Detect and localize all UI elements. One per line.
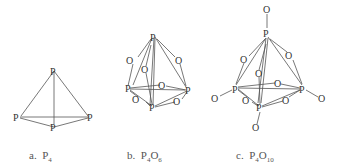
caption-p4: a. P4 xyxy=(29,149,52,164)
atom-p: P xyxy=(87,112,93,123)
atom-o: O xyxy=(141,64,148,75)
atom-o: O xyxy=(274,78,281,89)
atom-o: O xyxy=(255,68,262,79)
atom-p: P xyxy=(149,102,155,113)
formula-subscript: 10 xyxy=(267,156,274,164)
atom-o: O xyxy=(242,95,249,106)
atom-p: P xyxy=(50,66,56,77)
caption-letter: b. xyxy=(127,149,135,161)
p4o6-molecule: P P P P O O O O O O xyxy=(125,32,191,113)
atom-o: O xyxy=(175,55,182,66)
atom-p: P xyxy=(256,102,262,113)
atom-o: O xyxy=(252,122,259,133)
formula-subscript: 4 xyxy=(48,156,52,164)
p4-molecule: P P P P xyxy=(13,66,93,133)
atom-o: O xyxy=(126,55,133,66)
atom-o: O xyxy=(318,93,325,104)
atom-o: O xyxy=(240,54,247,65)
atom-p: P xyxy=(299,84,305,95)
molecule-diagrams: P P P P P P P P O O O O O O O P P P P O … xyxy=(0,0,340,168)
atom-o: O xyxy=(211,93,218,104)
atom-o: O xyxy=(285,50,292,61)
atom-p: P xyxy=(263,28,269,39)
atom-p: P xyxy=(125,83,131,94)
atom-p: P xyxy=(150,32,156,43)
atom-p: P xyxy=(185,85,191,96)
atom-o: O xyxy=(282,95,289,106)
atom-o: O xyxy=(173,96,180,107)
atom-p: P xyxy=(13,112,19,123)
atom-o: O xyxy=(158,80,165,91)
atom-o: O xyxy=(263,4,270,15)
caption-p4o10: c. P4O10 xyxy=(236,149,274,164)
caption-p4o6: b. P4O6 xyxy=(127,149,162,164)
atom-p: P xyxy=(50,122,56,133)
caption-letter: c. xyxy=(236,149,244,161)
caption-letter: a. xyxy=(29,149,37,161)
formula-element: O xyxy=(259,149,267,161)
atom-o: O xyxy=(132,94,139,105)
atom-p: P xyxy=(232,84,238,95)
p4o10-molecule: O P P P P O O O O O O O O O xyxy=(211,4,325,133)
formula-subscript: 6 xyxy=(158,156,162,164)
